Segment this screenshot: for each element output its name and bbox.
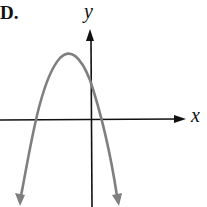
x-axis-arrow-icon [174, 115, 186, 123]
y-axis [86, 29, 94, 207]
curve-arrow-left-icon [15, 193, 25, 206]
y-axis-arrow-icon [86, 29, 94, 41]
graph [0, 0, 207, 207]
x-axis [0, 115, 186, 123]
parabola-curve [15, 54, 122, 206]
curve-arrow-right-icon [112, 193, 122, 206]
